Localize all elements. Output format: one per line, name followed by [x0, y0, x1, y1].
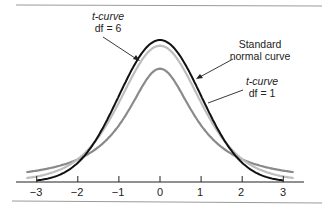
label-t1-line2: df = 1: [232, 87, 292, 99]
tick-label: −2: [71, 186, 84, 198]
arrowhead-normal: [196, 74, 203, 79]
tick-label: −3: [30, 186, 43, 198]
x-axis-ticks: [37, 176, 284, 182]
label-t1: t-curve df = 1: [232, 75, 292, 99]
t-distribution-chart: [0, 0, 322, 215]
tick-label: 0: [157, 186, 163, 198]
label-t6-line2: df = 6: [78, 22, 138, 34]
tick-label: −1: [112, 186, 125, 198]
tick-label: 3: [280, 186, 286, 198]
label-t6-line1: t-curve: [92, 10, 124, 22]
label-t1-line1: t-curve: [246, 75, 278, 87]
label-t6: t-curve df = 6: [78, 10, 138, 34]
bottom-rule: [12, 201, 322, 203]
tick-label: 1: [197, 186, 203, 198]
label-normal-line2: normal curve: [220, 50, 300, 62]
top-rule: [16, 5, 322, 6]
tick-label: 2: [238, 186, 244, 198]
label-normal-line1: Standard: [220, 38, 300, 50]
label-normal: Standard normal curve: [220, 38, 300, 62]
t-curve-df6: [26, 46, 293, 178]
arrow-t6: [103, 37, 138, 60]
